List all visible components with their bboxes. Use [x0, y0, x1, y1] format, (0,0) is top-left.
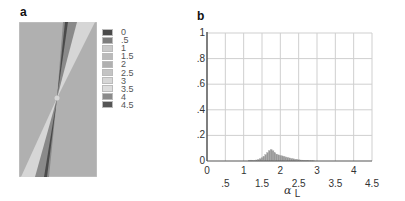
histogram-chart: 0.2.4.6.8101234.51.52.53.54.5αL	[0, 0, 405, 201]
y-tick-label: .8	[197, 53, 206, 64]
y-tick-label: 1	[199, 27, 205, 38]
x-tick-label: 2	[278, 165, 284, 176]
x-axis-label: α	[284, 184, 292, 197]
histogram-bar	[274, 153, 276, 161]
histogram-bar	[270, 149, 272, 161]
x-tick-label: 3	[314, 165, 320, 176]
y-tick-label: .4	[197, 104, 206, 115]
x-tick-label: 4.5	[365, 178, 379, 189]
histogram-bar	[276, 154, 278, 161]
histogram-bar	[267, 153, 269, 161]
histogram-bar	[268, 151, 270, 161]
histogram-bar	[265, 155, 267, 161]
histogram-bar	[278, 155, 280, 161]
x-tick-label: .5	[221, 178, 230, 189]
y-tick-label: .6	[197, 78, 206, 89]
x-axis-label-subscript: L	[295, 188, 301, 199]
histogram-bar	[263, 156, 265, 161]
histogram-bar	[283, 156, 285, 161]
histogram-bar	[279, 155, 281, 161]
histogram-bar	[285, 157, 287, 161]
x-tick-label: 3.5	[328, 178, 342, 189]
x-tick-label: 4	[351, 165, 357, 176]
x-tick-label: 1.5	[255, 178, 269, 189]
histogram-bar	[272, 151, 274, 161]
histogram-bar	[281, 156, 283, 161]
x-tick-label: 1	[241, 165, 247, 176]
y-tick-label: .2	[197, 129, 206, 140]
x-tick-label: 0	[204, 165, 210, 176]
